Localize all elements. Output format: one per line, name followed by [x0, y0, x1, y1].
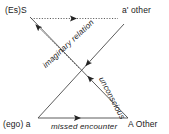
schema-l-diagram: (Es)S aʹ other (ego) a A Other missed en… — [0, 0, 169, 134]
corner-label-top-left: (Es)S — [5, 5, 27, 15]
corner-label-bottom-right: A Other — [128, 119, 158, 129]
diagram-canvas — [0, 0, 169, 134]
corner-label-top-right: aʹ other — [122, 5, 151, 15]
corner-label-bottom-left: (ego) a — [3, 119, 31, 129]
edge-label-missed-encounter: missed encounter — [51, 122, 117, 131]
